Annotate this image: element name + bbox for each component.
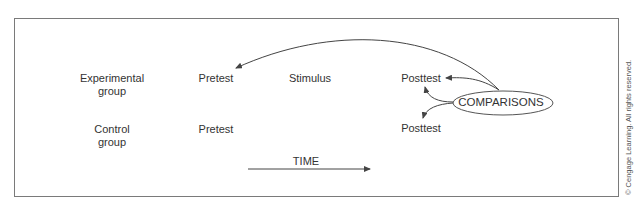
copyright-notice: © Cengage Learning. All rights reserved. (624, 60, 633, 195)
arrow-to-ctrl-posttest (423, 103, 453, 118)
comparisons-ellipse (453, 91, 553, 115)
arrow-to-pretest (236, 40, 499, 90)
diagram-connectors (0, 0, 640, 205)
arrow-up-posttest (425, 87, 453, 102)
arrow-to-exp-posttest (446, 78, 499, 90)
